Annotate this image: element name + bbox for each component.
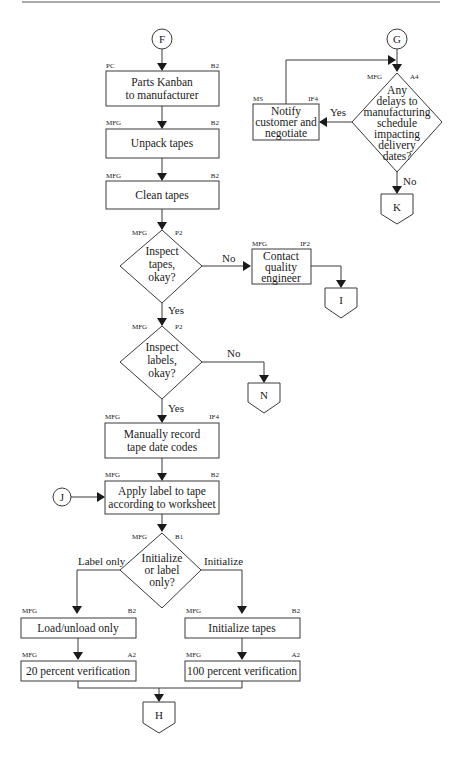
flowchart-canvas: F PC B2 Parts Kanban to manufacturer MFG…: [0, 0, 461, 768]
connector-g: G: [387, 29, 407, 49]
process-20-percent-verification: MFG A2 20 percent verification: [21, 651, 136, 681]
svg-text:MFG: MFG: [186, 651, 201, 659]
svg-text:MFG: MFG: [252, 240, 267, 248]
offpage-connector-i: I: [325, 288, 357, 318]
svg-text:B2: B2: [211, 119, 220, 127]
svg-text:according to worksheet: according to worksheet: [108, 498, 216, 511]
svg-text:Inspect: Inspect: [145, 341, 179, 354]
svg-text:A2: A2: [291, 651, 300, 659]
arrow-qe-to-i: [311, 266, 341, 287]
decision-any-delays: MFG A4 Any delays to manufacturing sched…: [352, 73, 442, 172]
svg-text:labels,: labels,: [147, 354, 177, 367]
svg-text:okay?: okay?: [148, 367, 175, 380]
connector-j: J: [53, 488, 71, 506]
svg-text:J: J: [60, 491, 65, 503]
svg-text:MFG: MFG: [186, 607, 201, 615]
svg-text:B2: B2: [128, 607, 137, 615]
edge-label-labels-yes: Yes: [168, 402, 184, 414]
arrow-labels-no: [202, 362, 264, 382]
svg-text:only?: only?: [149, 576, 175, 589]
svg-text:MFG: MFG: [132, 229, 147, 237]
connector-f: F: [152, 29, 172, 49]
svg-text:100 percent verification: 100 percent verification: [187, 665, 297, 678]
svg-text:dates?: dates?: [383, 150, 412, 162]
process-load-unload-only: MFG B2 Load/unload only: [21, 607, 136, 638]
svg-text:MFG: MFG: [106, 119, 121, 127]
svg-text:Initialize tapes: Initialize tapes: [208, 622, 276, 635]
edge-label-labels-no: No: [227, 347, 241, 359]
svg-text:MFG: MFG: [105, 413, 120, 421]
svg-text:F: F: [159, 33, 165, 45]
svg-text:IF2: IF2: [300, 240, 310, 248]
svg-text:tapes,: tapes,: [149, 258, 176, 271]
svg-text:G: G: [393, 33, 401, 45]
svg-text:MFG: MFG: [105, 471, 120, 479]
edge-label-delays-no: No: [403, 175, 417, 187]
svg-text:B1: B1: [175, 533, 184, 541]
svg-text:20 percent verification: 20 percent verification: [26, 665, 130, 678]
svg-text:P2: P2: [175, 229, 183, 237]
svg-text:A2: A2: [127, 651, 136, 659]
svg-text:PC: PC: [106, 62, 115, 70]
svg-text:Initialize: Initialize: [142, 552, 183, 564]
svg-text:I: I: [339, 294, 343, 306]
process-unpack-tapes: MFG B2 Unpack tapes: [106, 119, 219, 158]
svg-text:MFG: MFG: [367, 73, 382, 81]
svg-text:MFG: MFG: [132, 533, 147, 541]
merge-line: [78, 681, 242, 688]
svg-text:MFG: MFG: [106, 172, 121, 180]
svg-text:B2: B2: [292, 607, 301, 615]
svg-text:MFG: MFG: [132, 323, 147, 331]
svg-text:Load/unload only: Load/unload only: [37, 622, 119, 635]
svg-text:Unpack tapes: Unpack tapes: [131, 137, 194, 150]
svg-text:negotiate: negotiate: [265, 127, 307, 140]
offpage-connector-k: K: [381, 194, 413, 224]
svg-text:engineer: engineer: [261, 272, 301, 285]
svg-text:B2: B2: [211, 172, 220, 180]
svg-text:Parts Kanban: Parts Kanban: [131, 76, 193, 88]
decision-inspect-labels: MFG P2 Inspect labels, okay?: [120, 323, 202, 399]
process-contact-quality-engineer: MFG IF2 Contact quality engineer: [252, 240, 311, 285]
svg-text:B2: B2: [211, 471, 220, 479]
svg-text:Apply label to tape: Apply label to tape: [118, 485, 206, 498]
offpage-connector-h: H: [143, 702, 175, 733]
edge-label-tapes-no: No: [222, 252, 236, 264]
svg-text:Inspect: Inspect: [145, 245, 179, 258]
decision-inspect-tapes: MFG P2 Inspect tapes, okay?: [120, 229, 202, 303]
edge-label-initialize: Initialize: [204, 555, 243, 567]
svg-text:or label: or label: [145, 564, 180, 576]
process-parts-kanban: PC B2 Parts Kanban to manufacturer: [106, 62, 219, 106]
edge-label-delays-yes: Yes: [330, 106, 346, 118]
svg-text:A4: A4: [410, 73, 419, 81]
arrow-label-only: [77, 570, 120, 613]
svg-text:tape date codes: tape date codes: [127, 441, 198, 454]
svg-text:MS: MS: [253, 95, 263, 103]
svg-text:MFG: MFG: [22, 607, 37, 615]
svg-text:IF4: IF4: [308, 95, 318, 103]
svg-text:K: K: [393, 201, 401, 213]
svg-text:P2: P2: [175, 323, 183, 331]
process-clean-tapes: MFG B2 Clean tapes: [106, 172, 219, 209]
arrow-initialize: [201, 570, 242, 613]
svg-text:IF4: IF4: [209, 413, 219, 421]
svg-text:Manually record: Manually record: [124, 428, 201, 441]
process-initialize-tapes: MFG B2 Initialize tapes: [185, 607, 300, 638]
svg-text:H: H: [155, 709, 163, 721]
offpage-connector-n: N: [248, 383, 280, 413]
decision-initialize-or-label: MFG B1 Initialize or label only?: [120, 533, 201, 608]
svg-text:N: N: [260, 389, 268, 401]
process-100-percent-verification: MFG A2 100 percent verification: [185, 651, 300, 681]
svg-text:B2: B2: [211, 62, 220, 70]
edge-label-label-only: Label only: [78, 555, 126, 567]
svg-text:okay?: okay?: [148, 271, 175, 284]
svg-text:to manufacturer: to manufacturer: [125, 89, 198, 101]
svg-text:Clean tapes: Clean tapes: [135, 189, 189, 202]
svg-text:MFG: MFG: [22, 651, 37, 659]
edge-label-tapes-yes: Yes: [168, 304, 184, 316]
